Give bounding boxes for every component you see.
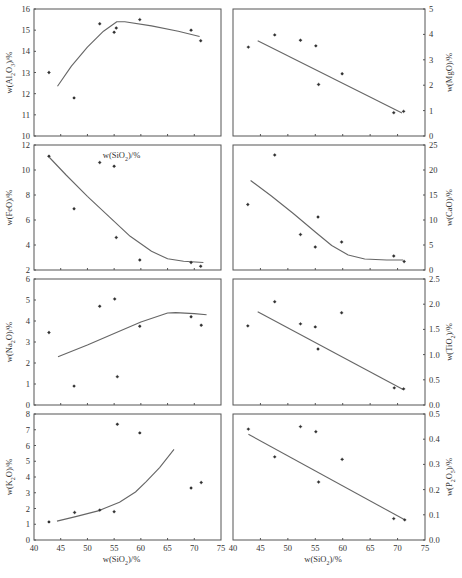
trend-line [58,313,207,357]
data-point-marker [246,203,250,207]
y-tick-label: 5 [429,4,433,14]
y-tick-label: 2 [26,504,30,514]
data-point-marker [47,520,51,524]
data-point-marker [247,45,251,49]
y-tick-label: 6 [26,441,30,451]
y-axis-label: w(Na2O)/% [4,322,16,362]
data-point-marker [199,481,203,485]
y-tick-label: 5 [26,456,30,466]
trend-line [57,449,174,521]
y-tick-label: 1.5 [429,324,440,334]
data-point-marker [138,258,142,262]
data-point-marker [340,458,344,462]
data-point-marker [112,30,116,34]
data-point-marker [314,44,318,48]
data-point-marker [73,511,77,515]
y-tick-label: 0.5 [429,375,440,385]
trend-line [258,41,402,113]
trend-line [248,434,404,520]
y-tick-label: 25 [429,140,438,150]
x-tick-label: 60 [338,543,347,553]
data-point-marker [314,430,318,434]
y-tick-label: 3 [429,55,433,65]
y-tick-label: 20 [429,165,438,175]
data-point-marker [317,83,321,87]
y-tick-label: 12 [22,140,31,150]
data-point-marker [392,386,396,390]
y-tick-label: 1.0 [429,350,440,360]
data-point-marker [112,164,116,168]
data-point-marker [246,324,250,328]
panel-al2o3: 10111213141516w(Al2O3)/%w(SiO2)/% [4,4,221,162]
data-point-marker [273,33,277,37]
data-point-marker [313,245,317,249]
y-tick-label: 4 [26,316,31,326]
x-tick-label: 75 [217,543,226,553]
x-tick-label: 40 [229,543,238,553]
x-tick-label: 50 [83,543,92,553]
x-tick-label: 45 [256,543,265,553]
trend-line [50,158,204,263]
data-point-marker [189,486,193,490]
panel-tio2: 0.00.51.01.52.02.5w(TiO2)/% [233,274,456,410]
x-tick-label: 55 [110,543,119,553]
data-point-marker [112,510,116,514]
data-point-marker [72,384,76,388]
data-point-marker [317,480,321,484]
y-tick-label: 3 [26,337,30,347]
data-point-marker [138,18,142,22]
trend-line [258,312,403,390]
y-axis-label: w(MgO)/% [444,53,454,92]
data-point-marker [402,110,406,114]
y-tick-label: 14 [22,46,31,56]
y-tick-label: 6 [26,215,30,225]
y-axis-label: w(K2O)/% [4,459,16,496]
y-tick-label: 11 [22,110,30,120]
plot-frame [34,145,221,270]
data-point-marker [189,28,193,32]
x-tick-label: 60 [137,543,146,553]
y-tick-label: 5 [429,240,433,250]
x-tick-label: 65 [366,543,375,553]
x-tick-label: 55 [311,543,320,553]
plot-frame [233,414,425,540]
data-point-marker [199,264,203,268]
y-tick-label: 2 [26,358,30,368]
y-axis-label: w(Al2O3)/% [4,52,16,94]
data-point-marker [114,236,118,240]
data-point-marker [114,26,118,30]
data-point-marker [113,297,117,301]
x-tick-label: 45 [56,543,65,553]
data-point-marker [116,422,120,426]
panel-na2o: 0123456w(Na2O)/% [4,274,221,410]
y-tick-label: 0.2 [429,485,440,495]
y-tick-label: 0.3 [429,459,440,469]
y-axis-label: w(FeO)/% [4,190,14,226]
plot-frame [233,9,425,136]
y-tick-label: 0.5 [429,409,440,419]
data-point-marker [392,517,396,521]
y-tick-label: 2 [429,80,433,90]
data-point-marker [72,96,76,100]
x-tick-label: 70 [190,543,199,553]
y-tick-label: 1 [429,106,433,116]
trend-line [251,181,404,261]
data-point-marker [247,427,251,431]
data-point-marker [392,254,396,258]
panel-p2o5: 0.00.10.20.30.40.54045505560657075w(P2O5… [229,409,456,566]
y-tick-label: 13 [22,68,31,78]
plot-frame [233,145,425,270]
x-tick-label: 40 [30,543,39,553]
data-point-marker [273,455,277,459]
trend-line [58,22,200,87]
plot-frame [34,414,221,540]
y-tick-label: 15 [429,190,438,200]
data-point-marker [273,153,277,157]
y-tick-label: 2.5 [429,274,440,284]
y-tick-label: 4 [26,472,31,482]
panel-feo: 24681012w(FeO)/% [4,140,221,275]
y-tick-label: 1 [26,519,30,529]
data-point-marker [199,323,203,327]
plot-frame [34,279,221,405]
data-point-marker [138,431,142,435]
